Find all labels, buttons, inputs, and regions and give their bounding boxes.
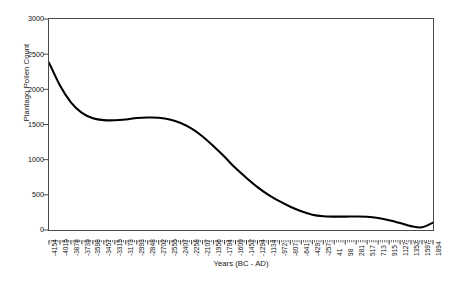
x-axis-tick-label: 1894: [436, 241, 443, 256]
x-axis-tick-label: -2848: [150, 239, 157, 256]
y-axis-tick-label: 500: [16, 191, 44, 198]
x-axis-tick-label: -3315: [117, 239, 124, 256]
y-axis-tick-label: 3000: [16, 15, 44, 22]
x-axis-tick-label: -1134: [271, 240, 278, 256]
x-axis-title: Years (BC - AD): [48, 259, 434, 268]
x-axis-tick-label: 281: [359, 245, 366, 256]
x-axis-tick-label: -2107: [205, 239, 212, 256]
y-axis-tick-label: 2000: [16, 86, 44, 93]
x-axis-tick-label: -4015: [63, 239, 70, 256]
x-axis-tick-label: -3598: [95, 239, 102, 256]
x-axis-tick-label: -1609: [238, 239, 245, 256]
x-axis-tick-label: 713: [381, 245, 388, 256]
x-axis-tick-label: -2702: [161, 239, 168, 256]
pollen-count-line: [49, 63, 433, 228]
x-axis-tick-label: -1452: [249, 239, 256, 256]
x-axis-tick-label: -2258: [194, 239, 201, 256]
x-axis-tick-label: -1956: [216, 239, 223, 256]
x-axis-tick-label: 1352: [414, 241, 421, 256]
x-axis-tick-label: -972: [282, 243, 289, 256]
x-axis-tick-label: -3739: [85, 239, 92, 256]
x-axis-tick-label: -3173: [128, 239, 135, 256]
x-axis-tick-label: 915: [392, 245, 399, 256]
y-axis-tick-label: 1000: [16, 156, 44, 163]
y-axis-tick-label: 1500: [16, 121, 44, 128]
x-axis-tick-label: -2555: [172, 239, 179, 256]
x-axis-tick-label: -641: [304, 243, 311, 256]
pollen-count-line-chart: Plantago Pollen Count 300025002000150010…: [0, 0, 453, 281]
data-line-svg: [49, 19, 433, 230]
x-axis-tick-label: 98: [348, 249, 355, 256]
y-axis-tick-label: 2500: [16, 51, 44, 58]
plot-area: [48, 18, 434, 231]
x-axis-tick-label: -1294: [260, 239, 267, 256]
x-axis-tick-label: 517: [370, 245, 377, 256]
x-axis-tick-label: 1127: [403, 242, 410, 256]
x-axis-tick-label: -2407: [183, 239, 190, 256]
x-axis-tick-label: -429: [315, 243, 322, 256]
x-axis-tick-label: -4154: [52, 239, 59, 256]
x-axis-tick-label: -3457: [106, 239, 113, 256]
x-axis-tick-label: -3878: [74, 239, 81, 256]
x-axis-tick-label: -1794: [227, 239, 234, 256]
x-axis-tick-label: 1597: [425, 241, 432, 256]
x-axis-tick-label: 41: [337, 249, 344, 256]
x-axis-tick-label: -257: [326, 243, 333, 256]
y-axis-tick-label: 0: [16, 226, 44, 233]
x-axis-tick-label: -2993: [139, 239, 146, 256]
y-axis-tick-labels: 300025002000150010005000: [14, 0, 44, 281]
x-axis-tick-label: -807: [293, 243, 300, 256]
